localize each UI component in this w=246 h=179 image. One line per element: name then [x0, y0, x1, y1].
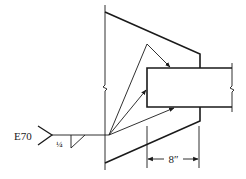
- tail-icon: [38, 126, 52, 145]
- dimension-label: 8″: [168, 153, 178, 165]
- attached-member: [147, 68, 232, 107]
- weld-leader-arrows: [109, 44, 174, 135]
- arrow-to-member-top: [109, 44, 170, 135]
- arrow-to-member-left: [109, 90, 146, 135]
- weld-symbol: [38, 126, 109, 148]
- member-break-line: [230, 63, 234, 112]
- bracket-weld-diagram: E70 ¼ 8″: [0, 0, 246, 179]
- electrode-label: E70: [14, 130, 32, 142]
- support-edge-line: [103, 5, 107, 170]
- fillet-weld-icon: [71, 135, 85, 148]
- bracket-plate: [105, 12, 200, 163]
- fillet-size-label: ¼: [56, 139, 63, 149]
